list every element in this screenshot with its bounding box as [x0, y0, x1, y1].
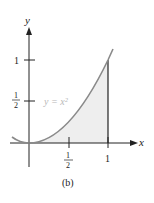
parabola-area-figure: y x 1 1 2 1 2 1 y = x² (b): [0, 0, 154, 203]
y-axis-label: y: [24, 14, 30, 26]
x-axis-arrow-icon: [130, 140, 138, 146]
y-axis-arrow-icon: [26, 27, 32, 35]
shaded-area: [29, 60, 108, 143]
xtick-half-num: 1: [66, 151, 70, 160]
curve-label: y = x²: [43, 96, 69, 107]
figure-caption: (b): [62, 177, 74, 189]
xtick-half-den: 2: [66, 161, 70, 170]
ytick-one-label: 1: [14, 55, 19, 66]
xtick-one-label: 1: [105, 153, 110, 164]
ytick-half-num: 1: [14, 91, 18, 100]
x-axis-label: x: [138, 136, 144, 148]
ytick-half-den: 2: [14, 101, 18, 110]
